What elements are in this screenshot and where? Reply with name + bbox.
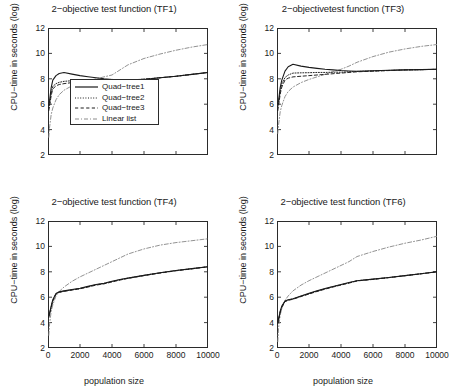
plot-area-tf3: 24681012 xyxy=(277,28,437,155)
x-tick-label: 6000 xyxy=(364,351,383,360)
series-line-linear-list xyxy=(278,236,437,341)
y-tick-label: 4 xyxy=(269,125,274,134)
legend-label: Quad−tree3 xyxy=(102,104,144,112)
x-tick-label: 10000 xyxy=(196,351,220,360)
y-tick-label: 10 xyxy=(36,49,45,58)
legend-item-3[interactable]: Quad−tree3 xyxy=(71,103,158,114)
y-tick-label: 10 xyxy=(36,242,45,251)
y-tick-label: 2 xyxy=(269,151,274,160)
legend-key-solid-icon xyxy=(74,82,99,92)
chart-panel-tf4: 2−objective test function (TF4) CPU−time… xyxy=(0,193,228,385)
x-tick-label: 2000 xyxy=(71,351,90,360)
series-line-linear-list xyxy=(278,45,437,134)
y-tick-label: 8 xyxy=(40,75,45,84)
y-tick-label: 6 xyxy=(40,100,45,109)
y-tick-label: 8 xyxy=(269,75,274,84)
chart-panel-tf3: 2−objectivetest function (TF3) CPU−time … xyxy=(229,0,457,192)
legend-key-dotted-icon xyxy=(74,93,99,103)
x-tick-label: 8000 xyxy=(396,351,415,360)
x-tick-label: 0 xyxy=(275,351,280,360)
x-tick-label: 0 xyxy=(46,351,51,360)
series-line-quad-tree3 xyxy=(278,69,437,110)
panel-title-tf6: 2−objective test function (TF6) xyxy=(229,196,457,207)
y-tick-label: 4 xyxy=(269,318,274,327)
series-line-quad-tree2 xyxy=(278,272,437,323)
panel-title-tf1: 2−objective test function (TF1) xyxy=(0,3,228,14)
y-tick-label: 8 xyxy=(40,268,45,277)
panel-title-tf3: 2−objectivetest function (TF3) xyxy=(229,3,457,14)
x-tick-label: 2000 xyxy=(300,351,319,360)
chart-legend: Quad−tree1Quad−tree2Quad−tree3Linear lis… xyxy=(70,79,159,125)
y-tick-label: 10 xyxy=(265,242,274,251)
y-tick-label: 2 xyxy=(40,344,45,353)
y-tick-label: 8 xyxy=(269,268,274,277)
panel-title-tf4: 2−objective test function (TF4) xyxy=(0,196,228,207)
plot-canvas-tf4 xyxy=(48,221,208,348)
x-tick-label: 4000 xyxy=(103,351,122,360)
legend-label: Linear list xyxy=(102,115,136,123)
y-tick-label: 6 xyxy=(269,100,274,109)
axis-frame xyxy=(49,222,208,348)
series-line-quad-tree2 xyxy=(49,267,208,317)
legend-item-4[interactable]: Linear list xyxy=(71,114,158,125)
x-axis-label-tf4: population size xyxy=(0,376,228,386)
chart-panel-tf1: 2−objective test function (TF1) CPU−time… xyxy=(0,0,228,192)
y-tick-label: 4 xyxy=(40,318,45,327)
series-line-quad-tree3 xyxy=(49,267,208,318)
x-tick-label: 6000 xyxy=(135,351,154,360)
chart-panel-tf6: 2−objective test function (TF6) CPU−time… xyxy=(229,193,457,385)
x-tick-label: 4000 xyxy=(332,351,351,360)
series-line-quad-tree1 xyxy=(49,267,208,315)
y-tick-label: 12 xyxy=(265,24,274,33)
y-tick-label: 2 xyxy=(40,151,45,160)
y-tick-label: 6 xyxy=(40,293,45,302)
y-axis-label-tf6: CPU−time in seconds (log) xyxy=(238,190,248,310)
y-tick-label: 2 xyxy=(269,344,274,353)
series-line-quad-tree3 xyxy=(278,272,437,324)
plot-canvas-tf3 xyxy=(277,28,437,155)
y-tick-label: 12 xyxy=(265,217,274,226)
x-axis-label-tf6: population size xyxy=(229,376,457,386)
plot-area-tf4: 246810120200040006000800010000 xyxy=(48,221,208,348)
y-axis-label-tf3: CPU−time in seconds (log) xyxy=(238,0,248,117)
y-tick-label: 12 xyxy=(36,217,45,226)
y-axis-label-tf1: CPU−time in seconds (log) xyxy=(9,0,19,117)
y-axis-label-tf4: CPU−time in seconds (log) xyxy=(9,190,19,310)
legend-item-2[interactable]: Quad−tree2 xyxy=(71,93,158,104)
legend-key-dashed-icon xyxy=(74,103,99,113)
legend-item-1[interactable]: Quad−tree1 xyxy=(71,82,158,93)
plot-canvas-tf6 xyxy=(277,221,437,348)
x-tick-label: 8000 xyxy=(167,351,186,360)
series-line-linear-list xyxy=(49,239,208,336)
y-tick-label: 6 xyxy=(269,293,274,302)
y-tick-label: 12 xyxy=(36,24,45,33)
legend-label: Quad−tree2 xyxy=(102,94,144,102)
y-tick-label: 4 xyxy=(40,125,45,134)
series-line-quad-tree2 xyxy=(278,69,437,106)
plot-area-tf6: 246810120200040006000800010000 xyxy=(277,221,437,348)
legend-key-dashdot-icon xyxy=(74,114,99,124)
y-tick-label: 10 xyxy=(265,49,274,58)
legend-label: Quad−tree1 xyxy=(102,83,144,91)
x-tick-label: 10000 xyxy=(425,351,449,360)
